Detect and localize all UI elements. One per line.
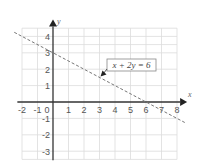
- x-tick-label: 6: [143, 105, 148, 115]
- x-tick-label: 3: [97, 105, 102, 115]
- y-tick-label: 1: [45, 81, 50, 91]
- x-axis-label: x: [187, 90, 192, 99]
- y-axis-arrow-icon: [49, 20, 57, 27]
- y-tick-label: -1: [42, 114, 50, 124]
- tick-labels: -2-10123456784321-1-2-3: [18, 32, 180, 157]
- y-tick-label: 4: [45, 32, 50, 42]
- annotations: x + 2y = 6: [101, 59, 157, 76]
- x-tick-label: 4: [112, 105, 117, 115]
- x-tick-label: -1: [33, 105, 41, 115]
- x-tick-label: 5: [128, 105, 133, 115]
- x-axis-arrow-icon: [180, 98, 187, 106]
- y-tick-label: -3: [42, 147, 50, 157]
- equation-label: x + 2y = 6: [111, 60, 151, 70]
- x-tick-label: -2: [18, 105, 26, 115]
- x-tick-label: 2: [81, 105, 86, 115]
- x-tick-label: 1: [66, 105, 71, 115]
- coordinate-plane: xy -2-10123456784321-1-2-3 x + 2y = 6: [0, 0, 201, 168]
- y-tick-label: -2: [42, 130, 50, 140]
- x-tick-label: 8: [174, 105, 179, 115]
- y-tick-label: 2: [45, 65, 50, 75]
- y-axis-label: y: [56, 17, 61, 26]
